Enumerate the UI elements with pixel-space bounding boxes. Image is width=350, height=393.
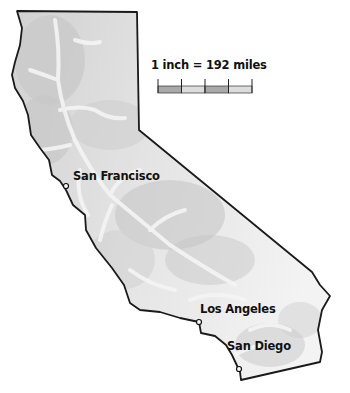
city-label-san-diego: San Diego [227,339,291,353]
san-francisco-marker-icon [64,184,69,189]
city-label-los-angeles: Los Angeles [200,302,276,316]
city-label-san-francisco: San Francisco [73,169,160,183]
los-angeles-marker-icon [197,320,202,325]
san-diego-marker-icon [237,367,242,372]
scale-bar [158,79,252,93]
scale-label: 1 inch = 192 miles [151,58,267,72]
